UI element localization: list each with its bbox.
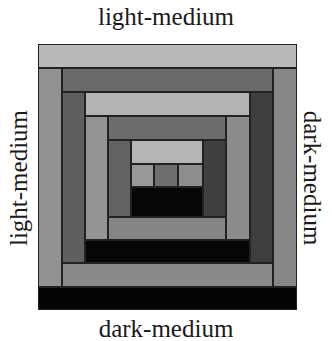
- quilt-strip-ring4-bottom: [108, 217, 226, 240]
- quilt-strip-ring2-right: [250, 92, 273, 263]
- log-cabin-quilt-block: [38, 44, 297, 310]
- quilt-strip-ring5-center: [154, 164, 178, 187]
- quilt-strip-ring1-right: [273, 68, 297, 287]
- top-label: light-medium: [0, 4, 332, 29]
- bottom-label: dark-medium: [0, 316, 332, 341]
- quilt-strip-ring1-top: [38, 44, 297, 68]
- quilt-strip-ring3-top: [85, 92, 250, 116]
- quilt-strip-ring2-bottom: [62, 263, 273, 287]
- quilt-strip-ring5-right: [178, 164, 203, 187]
- quilt-strip-ring2-left: [62, 92, 85, 263]
- quilt-strip-ring3-left: [85, 116, 108, 240]
- quilt-strip-ring4-left: [108, 140, 131, 217]
- quilt-strip-ring4-top: [108, 116, 226, 140]
- quilt-strip-ring5-left: [131, 164, 154, 187]
- left-label: light-medium: [6, 110, 31, 246]
- quilt-strip-ring5-bottom: [131, 187, 203, 217]
- quilt-strip-ring3-right: [226, 116, 250, 240]
- quilt-strip-ring4-right: [203, 140, 226, 217]
- quilt-strip-ring3-bottom: [85, 240, 250, 263]
- quilt-strip-ring5-top: [131, 140, 203, 164]
- right-label: dark-medium: [300, 111, 325, 246]
- quilt-strip-ring2-top: [62, 68, 273, 92]
- quilt-strip-ring1-left: [38, 68, 62, 287]
- quilt-strip-ring1-bottom: [38, 287, 297, 310]
